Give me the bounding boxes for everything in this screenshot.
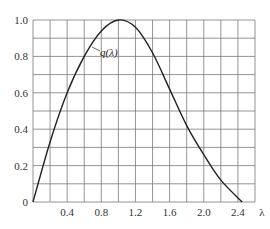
svg-text:0.6: 0.6 [14,87,28,99]
label-leader-line [92,47,100,51]
svg-text:0.4: 0.4 [60,206,74,218]
curve-label: q(λ) [100,46,118,59]
svg-text:0.8: 0.8 [14,50,28,62]
svg-text:0.2: 0.2 [14,160,28,172]
x-axis-label: λ [259,206,265,218]
grid-lines [33,20,255,202]
svg-text:0.8: 0.8 [94,206,108,218]
x-tick-labels: 0.40.81.21.62.02.4 [60,206,245,218]
chart: 00.20.40.60.81.0 0.40.81.21.62.02.4 q(λ)… [0,0,270,229]
svg-text:2.4: 2.4 [231,206,245,218]
svg-text:1.6: 1.6 [163,206,177,218]
svg-text:2.0: 2.0 [197,206,211,218]
svg-text:0.4: 0.4 [14,123,28,135]
svg-text:1.0: 1.0 [14,14,28,26]
svg-text:1.2: 1.2 [129,206,143,218]
svg-text:0: 0 [23,196,29,208]
y-tick-labels: 00.20.40.60.81.0 [14,14,28,208]
